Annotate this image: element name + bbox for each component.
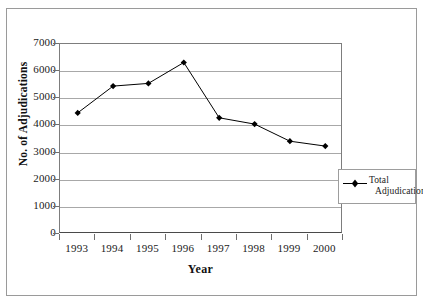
data-point-marker bbox=[216, 115, 222, 121]
series-total-adjudications bbox=[60, 44, 343, 234]
legend-item-total-adjudications: Total Adjudications bbox=[339, 170, 415, 203]
x-axis-tick-mark bbox=[342, 234, 343, 240]
legend-item-label: Total Adjudications bbox=[369, 175, 415, 197]
diamond-marker-icon bbox=[343, 179, 367, 188]
data-point-marker bbox=[145, 80, 151, 86]
x-axis-tick-mark bbox=[236, 234, 237, 240]
x-axis-tick-mark bbox=[130, 234, 131, 240]
x-axis-tick-label: 1995 bbox=[130, 243, 165, 254]
y-axis-title: No. of Adjudications bbox=[17, 44, 29, 184]
data-point-marker bbox=[181, 59, 187, 65]
x-axis-tick-label: 1998 bbox=[236, 243, 271, 254]
gridline bbox=[60, 98, 341, 99]
x-axis-tick-mark bbox=[59, 234, 60, 240]
data-point-marker bbox=[110, 83, 116, 89]
gridline bbox=[60, 207, 341, 208]
x-axis-title: Year bbox=[59, 262, 342, 277]
x-axis-tick-label: 1997 bbox=[201, 243, 236, 254]
x-axis-tick-label: 2000 bbox=[307, 243, 342, 254]
x-axis-tick-label: 1994 bbox=[94, 243, 129, 254]
legend-label-line-2: Adjudications bbox=[375, 186, 415, 197]
gridline bbox=[60, 153, 341, 154]
gridline bbox=[60, 71, 341, 72]
x-axis-tick-label: 1993 bbox=[59, 243, 94, 254]
data-point-marker bbox=[75, 110, 81, 116]
x-axis-tick-mark bbox=[165, 234, 166, 240]
x-axis-tick-mark bbox=[271, 234, 272, 240]
x-axis-tick-label: 1996 bbox=[165, 243, 200, 254]
x-axis-tick-mark bbox=[307, 234, 308, 240]
gridline bbox=[60, 180, 341, 181]
x-axis-tick-mark bbox=[201, 234, 202, 240]
chart-legend: Total Adjudications bbox=[338, 169, 416, 204]
x-axis-tick-label: 1999 bbox=[271, 243, 306, 254]
plot-area bbox=[59, 43, 342, 233]
gridline bbox=[60, 125, 341, 126]
data-point-marker bbox=[322, 143, 328, 149]
data-point-marker bbox=[287, 138, 293, 144]
series-line bbox=[78, 63, 326, 147]
x-axis-tick-mark bbox=[94, 234, 95, 240]
chart-figure: 01000200030004000500060007000 No. of Adj… bbox=[0, 0, 423, 305]
legend-label-line-1: Total bbox=[369, 175, 389, 185]
